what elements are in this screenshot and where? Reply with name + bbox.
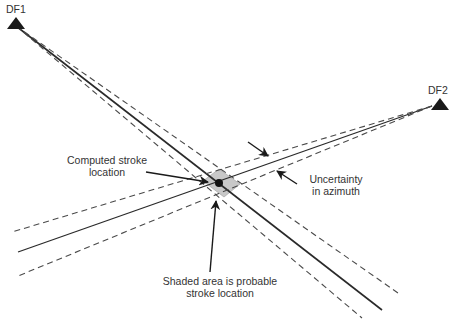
df2-label: DF2 <box>428 84 448 96</box>
shaded-area-label-line1: Shaded area is probable <box>155 275 285 287</box>
uncertainty-label-line1: Uncertainty <box>300 173 372 185</box>
computed-stroke-arrow <box>146 172 208 182</box>
azimuth-arrow-lower <box>277 171 297 184</box>
shaded-area-arrow <box>210 201 216 272</box>
azimuth-arrow-upper <box>248 142 268 156</box>
computed-stroke-point <box>215 179 223 187</box>
computed-stroke-label-line1: Computed stroke <box>62 154 152 166</box>
shaded-area-label: Shaded area is probable stroke location <box>155 275 285 299</box>
uncertainty-label-line2: in azimuth <box>300 185 372 197</box>
uncertainty-label: Uncertainty in azimuth <box>300 173 372 197</box>
df2-station-icon <box>431 98 449 110</box>
computed-stroke-label: Computed stroke location <box>62 154 152 178</box>
df1-label: DF1 <box>6 3 26 15</box>
computed-stroke-label-line2: location <box>62 166 152 178</box>
shaded-area-label-line2: stroke location <box>155 287 285 299</box>
df1-station-icon <box>7 17 25 29</box>
